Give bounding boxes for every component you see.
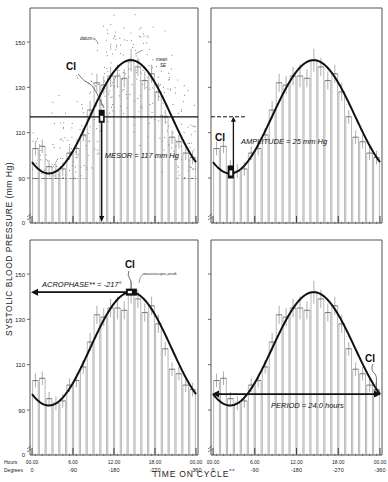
y-tick-label: 130 — [15, 317, 26, 323]
data-point — [194, 126, 195, 127]
bar — [115, 297, 121, 456]
data-point — [71, 137, 72, 138]
data-point — [36, 163, 37, 164]
data-point — [75, 151, 76, 152]
data-point — [139, 36, 140, 37]
data-point — [46, 154, 47, 155]
data-point — [158, 77, 159, 78]
data-point — [116, 45, 117, 46]
data-point — [82, 108, 83, 109]
x-hours-label: 00.00 — [374, 459, 387, 465]
data-point — [136, 72, 137, 73]
data-point — [184, 177, 185, 178]
x-hours-label: 00.00 — [190, 459, 203, 465]
data-point — [162, 115, 163, 116]
data-point — [97, 154, 98, 155]
bar — [241, 162, 247, 224]
bar — [318, 290, 324, 456]
data-point — [110, 24, 111, 25]
cosine-fit-curve — [32, 292, 196, 405]
data-point — [36, 178, 37, 179]
data-point — [56, 166, 57, 167]
data-point — [130, 69, 131, 70]
bar — [108, 67, 114, 224]
x-hours-label: 18.00 — [332, 459, 345, 465]
data-point — [196, 178, 197, 179]
bar — [60, 162, 66, 224]
data-point — [111, 107, 112, 108]
panel-mesor: 901101301500MESOR = 117 mm HgCIdatummean… — [15, 8, 198, 226]
hours-row-label: Hours — [4, 459, 18, 465]
data-point — [107, 33, 108, 34]
data-point — [119, 74, 120, 75]
data-point — [181, 146, 182, 147]
data-point — [107, 71, 108, 72]
ci-leader — [128, 271, 131, 289]
bar — [339, 315, 345, 456]
bar — [135, 58, 141, 224]
data-point — [65, 137, 66, 138]
x-hours-label: 00.00 — [207, 459, 220, 465]
data-point — [138, 60, 139, 61]
data-point — [122, 79, 123, 80]
bar — [135, 290, 141, 456]
bar — [325, 71, 331, 224]
data-point — [194, 105, 195, 106]
data-point — [98, 153, 99, 154]
data-point — [184, 85, 185, 86]
data-point — [106, 52, 107, 53]
data-point — [97, 141, 98, 142]
bar — [360, 367, 366, 456]
data-point — [54, 123, 55, 124]
bar — [339, 83, 345, 224]
y-axis-label-wrap: SYSTOLIC BLOOD PRESSURE (mm Hg) — [2, 120, 14, 380]
data-point — [80, 129, 81, 130]
data-point — [71, 127, 72, 128]
data-point — [104, 81, 105, 82]
data-point — [57, 159, 58, 160]
data-point — [40, 155, 41, 156]
data-point — [84, 165, 85, 166]
data-point — [153, 27, 154, 28]
data-point — [191, 134, 192, 135]
data-point — [142, 50, 143, 51]
x-hours-label: 12.00 — [290, 459, 303, 465]
data-point — [104, 67, 105, 68]
data-point — [96, 128, 97, 129]
data-point — [77, 139, 78, 140]
data-point — [78, 154, 79, 155]
data-point — [59, 95, 60, 96]
data-point — [190, 147, 191, 148]
data-point — [103, 26, 104, 27]
data-point — [46, 159, 47, 160]
bar — [169, 130, 175, 224]
data-point — [143, 43, 144, 44]
data-point — [53, 144, 54, 145]
data-point — [69, 178, 70, 179]
panel-acrophase: 90110130150000.0006.00-9012.00-18018.00-… — [4, 240, 202, 473]
bar — [128, 281, 134, 456]
bar — [255, 374, 261, 456]
data-point — [139, 145, 140, 146]
data-point — [69, 170, 70, 171]
data-point — [93, 83, 94, 84]
data-point — [107, 55, 108, 56]
data-point — [49, 176, 50, 177]
data-point — [41, 178, 42, 179]
data-point — [150, 89, 151, 90]
data-point — [116, 46, 117, 47]
data-point — [110, 46, 111, 47]
data-point — [67, 140, 68, 141]
bar — [176, 367, 182, 456]
data-point — [169, 77, 170, 78]
data-point — [97, 50, 98, 51]
data-point — [178, 113, 179, 114]
data-point — [112, 54, 113, 55]
data-point — [159, 138, 160, 139]
bar — [221, 139, 227, 224]
bar — [142, 71, 148, 224]
data-point — [191, 143, 192, 144]
data-point — [88, 133, 89, 134]
bar — [332, 297, 338, 456]
data-point — [125, 73, 126, 74]
